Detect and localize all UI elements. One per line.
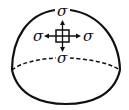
arrow-left-icon (44, 34, 49, 39)
sigma-label-right: σ (83, 27, 94, 45)
arrow-up-icon (60, 20, 65, 25)
arrow-right-icon (76, 34, 81, 39)
sigma-label-top: σ (57, 2, 68, 20)
dome-upper-arc-right (70, 10, 120, 70)
sigma-label-left: σ (33, 27, 44, 45)
dome-base-front-arc (12, 70, 120, 104)
diagram-svg: σ σ σ σ (0, 0, 129, 110)
dome-base-back-arc-left (12, 58, 56, 70)
sigma-label-bottom: σ (57, 49, 68, 67)
dome-stress-diagram: σ σ σ σ (0, 0, 129, 110)
dome-base-back-arc-right (70, 58, 120, 70)
